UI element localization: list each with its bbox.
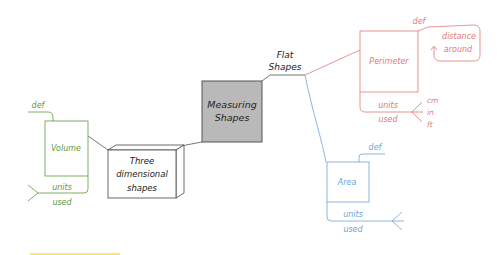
area-def-label: def [369, 143, 383, 152]
volume-units-fork-icon [28, 185, 38, 201]
perimeter-title: Perimeter [369, 57, 409, 66]
connector-flat-to-area [305, 75, 326, 162]
perimeter-def-branch [418, 27, 428, 31]
three-d-label-line1: Three [130, 156, 155, 166]
connector-center-to-flat [262, 75, 305, 81]
perimeter-unit-cm: cm [427, 96, 438, 105]
volume-def-branch [28, 112, 53, 121]
perimeter-node[interactable]: Perimeter def distance around units used… [360, 17, 480, 129]
perimeter-def-text-line2: around [444, 45, 473, 54]
volume-title: Volume [51, 144, 81, 153]
perimeter-unit-ft: ft [427, 120, 434, 129]
perimeter-def-callout [428, 25, 480, 61]
area-units-line1: units [343, 210, 363, 219]
flat-label-line2: Shapes [269, 62, 302, 72]
volume-units-line1: units [52, 183, 72, 192]
flat-shapes-node[interactable]: Flat Shapes [269, 50, 302, 72]
center-node[interactable]: Measuring Shapes [202, 81, 262, 142]
perimeter-units-line1: units [378, 101, 398, 110]
three-d-shapes-node[interactable]: Three dimensional shapes [108, 145, 184, 198]
volume-units-line2: used [52, 198, 72, 207]
connector-flat-to-perimeter [305, 50, 360, 75]
perimeter-unit-in: in [427, 108, 434, 117]
perimeter-def-text-line1: distance [442, 32, 476, 41]
volume-def-label: def [32, 101, 46, 110]
volume-node[interactable]: Volume def units used [28, 101, 88, 207]
perimeter-units-line2: used [378, 115, 398, 124]
area-node[interactable]: Area def units used [327, 143, 404, 234]
area-title: Area [337, 178, 357, 187]
three-d-label-line3: shapes [127, 183, 158, 193]
three-d-label-line2: dimensional [116, 169, 168, 179]
perimeter-units-fork-icon [412, 102, 423, 122]
perimeter-def-label: def [413, 17, 427, 26]
flat-label-line1: Flat [277, 50, 294, 60]
area-def-branch [359, 154, 385, 162]
area-units-fork-icon [392, 212, 404, 230]
center-label-line1: Measuring [207, 99, 256, 110]
mind-map-canvas: Measuring Shapes Flat Shapes Three dimen… [0, 0, 501, 255]
center-label-line2: Shapes [215, 112, 250, 123]
area-units-line2: used [343, 225, 363, 234]
connector-3d-to-volume [88, 136, 108, 150]
